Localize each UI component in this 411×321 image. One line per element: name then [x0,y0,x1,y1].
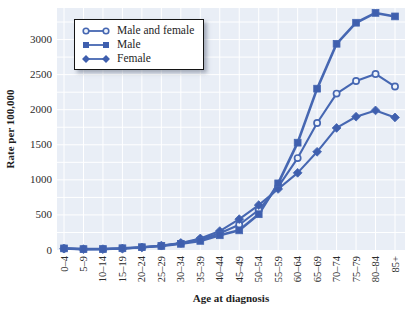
x-tick-label: 65–69 [312,256,323,282]
x-tick-label: 0–4 [59,255,70,272]
cancer-incidence-figure: 0500100015002000250030000–45–910–1415–19… [0,0,411,321]
marker-male [392,13,399,20]
marker-male-and-female [333,90,339,96]
marker-male [216,232,223,239]
diamond-icon [82,53,110,65]
x-axis-title: Age at diagnosis [193,292,270,304]
marker-male [80,246,87,253]
y-tick-label: 0 [47,244,53,256]
diamond-icon [102,55,110,63]
x-tick-label: 80–84 [370,255,381,282]
legend: Male and femaleMaleFemale [74,19,204,70]
marker-male-and-female [392,83,398,89]
marker-male-and-female [314,120,320,126]
y-tick-label: 500 [36,208,53,220]
y-tick-label: 1500 [30,138,53,150]
marker-male-and-female [372,71,378,77]
legend-item-female: Female [82,52,194,65]
legend-item-label: Male [117,38,141,51]
x-tick-label: 10–14 [97,255,108,282]
marker-male [255,211,262,218]
circle-open-icon [82,25,110,37]
x-tick-label: 50–54 [253,255,264,282]
x-tick-label: 85+ [390,256,401,273]
y-tick-label: 2000 [30,103,53,115]
legend-item-label: Male and female [117,24,194,37]
square-icon [83,42,89,48]
x-tick-label: 40–44 [214,255,225,282]
marker-male [177,240,184,247]
circle-open-icon [83,28,89,34]
x-tick-label: 25–29 [156,256,167,282]
x-tick-label: 5–9 [78,256,89,272]
y-tick-label: 2500 [30,68,53,80]
marker-male [333,40,340,47]
y-tick-label: 3000 [30,33,53,45]
x-tick-label: 75–79 [351,256,362,282]
x-tick-label: 45–49 [234,256,245,282]
marker-male-and-female [295,155,301,161]
x-tick-label: 60–64 [292,255,303,282]
marker-male [158,243,165,250]
legend-item-label: Female [117,52,151,65]
marker-male [236,227,243,234]
circle-open-icon [103,28,109,34]
x-tick-label: 20–24 [136,255,147,282]
square-icon [82,39,110,51]
x-tick-label: 15–19 [117,256,128,282]
y-tick-label: 1000 [30,173,53,185]
chart-plot-area: 0500100015002000250030000–45–910–1415–19… [0,0,411,321]
legend-item-male: Male [82,38,194,51]
marker-male [138,244,145,251]
marker-male [119,245,126,252]
marker-male [197,237,204,244]
x-tick-label: 35–39 [195,256,206,282]
legend-item-male-and-female: Male and female [82,24,194,37]
diamond-icon [82,55,90,63]
x-tick-label: 70–74 [331,255,342,282]
marker-male [294,139,301,146]
marker-male-and-female [353,78,359,84]
marker-male [100,246,107,253]
marker-male [275,180,282,187]
marker-male [372,10,379,17]
x-tick-label: 30–34 [175,255,186,282]
marker-male [353,19,360,26]
square-icon [103,42,109,48]
y-axis-title: Rate per 100,000 [4,89,16,168]
x-tick-label: 55–59 [273,256,284,282]
marker-male [61,245,68,252]
marker-male [314,85,321,92]
